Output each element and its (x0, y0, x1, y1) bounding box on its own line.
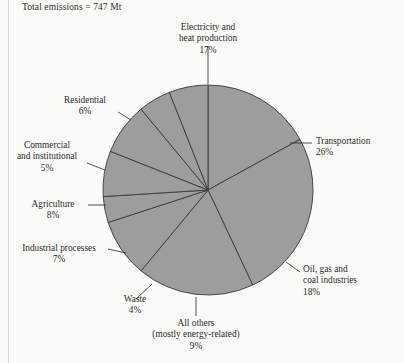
slice-label-line1: All others (178, 318, 215, 328)
slice-label-all-others: All others (mostly energy-related) 9% (126, 318, 266, 352)
slice-label-residential: Residential 6% (50, 95, 120, 118)
slice-value-transportation: 26% (316, 147, 402, 158)
slice-value-all-others: 9% (126, 341, 266, 352)
slice-value-electricity-and-heat-production: 17% (143, 45, 273, 56)
slice-label-line1: Transportation (316, 136, 370, 146)
slice-label-waste: Waste 4% (96, 294, 174, 317)
slice-label-industrial-processes: Industrial processes 7% (10, 243, 108, 266)
slice-label-line2: heat production (179, 33, 237, 43)
slice-label-line1: Agriculture (32, 199, 75, 209)
slice-label-line2: and institutional (17, 151, 77, 161)
slice-label-oil-gas-and-coal-industries: Oil, gas and coal industries 18% (303, 264, 399, 298)
slice-value-industrial-processes: 7% (10, 254, 108, 265)
slice-label-electricity-and-heat-production: Electricity and heat production 17% (143, 22, 273, 56)
leader-line-oil-gas-coal (286, 262, 300, 272)
slice-label-commercial-and-institutional: Commercial and institutional 5% (4, 140, 90, 174)
slice-label-transportation: Transportation 26% (316, 136, 402, 159)
slice-value-waste: 4% (96, 305, 174, 316)
slice-label-line1: Waste (124, 294, 146, 304)
slice-label-line1: Industrial processes (22, 243, 96, 253)
slice-value-commercial-and-institutional: 5% (4, 163, 90, 174)
slice-value-residential: 6% (50, 106, 120, 117)
slice-value-agriculture: 8% (18, 210, 88, 221)
slice-value-oil-gas-and-coal-industries: 18% (303, 287, 399, 298)
slice-label-line2: coal industries (303, 275, 357, 285)
slice-label-agriculture: Agriculture 8% (18, 199, 88, 222)
slice-label-line1: Residential (64, 95, 106, 105)
slice-label-line1: Oil, gas and (303, 264, 348, 274)
slice-label-line1: Electricity and (181, 22, 235, 32)
pie-slice-group (103, 85, 313, 295)
slice-label-line2: (mostly energy-related) (152, 329, 239, 339)
slice-label-line1: Commercial (24, 140, 70, 150)
pie-chart-figure: Total emissions = 747 Mt Electricity and… (0, 0, 404, 363)
